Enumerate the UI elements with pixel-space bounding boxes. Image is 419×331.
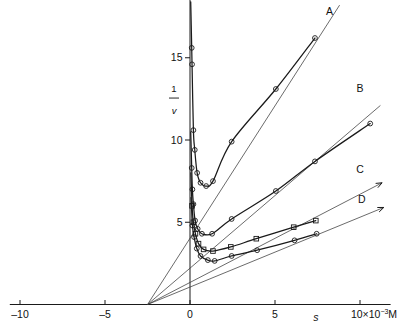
- curve-labels: ABCD: [326, 5, 366, 205]
- asymptote-lines: [148, 5, 384, 304]
- y-axis-label: 1v: [169, 83, 179, 115]
- curve-label-C: C: [356, 163, 364, 175]
- curve-label-B: B: [356, 82, 363, 94]
- asymptote-line-C: [148, 183, 383, 305]
- x-axis-label: s: [313, 311, 319, 323]
- curve-B: [191, 124, 370, 236]
- y-tick-label: 5: [177, 216, 183, 228]
- x-tick-label: –5: [99, 308, 111, 320]
- curve-A: [191, 2, 315, 187]
- x-tick-label: 0: [187, 308, 193, 320]
- x-tick-label: –10: [11, 308, 29, 320]
- series-A: [189, 2, 317, 189]
- axes-group: –10–50510×10−3M51015s1v: [10, 0, 397, 323]
- asymptote-line-D: [148, 207, 384, 304]
- series-B: [189, 121, 372, 236]
- x-tick-label: 10×10−3M: [351, 308, 397, 320]
- asymptote-line-A: [148, 5, 340, 304]
- curve-label-A: A: [326, 5, 333, 17]
- curves-group: [189, 2, 372, 263]
- curve-label-D: D: [358, 193, 366, 205]
- plot-canvas: –10–50510×10−3M51015s1vABCD: [0, 0, 419, 331]
- y-axis-label-numerator: 1: [171, 83, 176, 94]
- y-tick-label: 15: [171, 51, 183, 63]
- y-tick-label: 10: [171, 134, 183, 146]
- x-tick-label: 5: [272, 308, 278, 320]
- y-axis-label-denominator: v: [172, 105, 178, 116]
- chart-figure: –10–50510×10−3M51015s1vABCD: [0, 0, 419, 331]
